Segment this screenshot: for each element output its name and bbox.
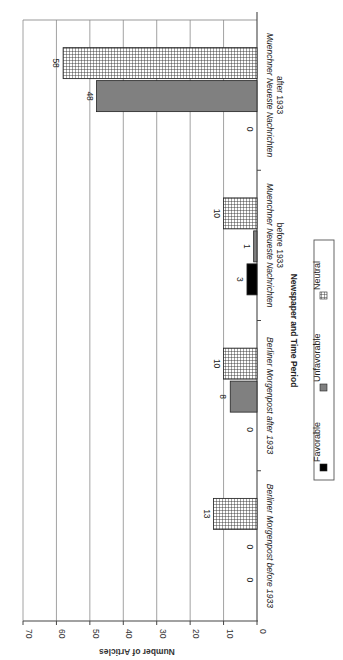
bar-favorable: [247, 264, 257, 295]
y-tick-label: 30: [158, 629, 168, 639]
data-label: 13: [202, 509, 212, 519]
bar-unfavorable: [97, 81, 257, 112]
category-label: before 1933: [275, 223, 285, 269]
category-label: after 1933: [275, 76, 285, 115]
y-tick-label: 20: [191, 629, 201, 639]
category-label: Muenchner Neueste Nachrichten: [265, 183, 275, 308]
legend-swatch-unfavorable: [320, 384, 327, 391]
data-label: 0: [245, 427, 255, 432]
data-label: 3: [235, 277, 245, 282]
x-axis-title: Newspaper and Time Period: [289, 274, 299, 388]
y-tick-label: 70: [24, 629, 34, 639]
legend-label-unfavorable: Unfavorable: [312, 333, 322, 382]
data-label: 0: [245, 578, 255, 583]
legend-label-favorable: Favorable: [312, 422, 322, 462]
data-label: 8: [218, 394, 228, 399]
legend-swatch-neutral: [320, 292, 327, 299]
y-tick-label: 0: [258, 629, 268, 634]
bar-neutral: [224, 348, 257, 379]
bar-unfavorable: [230, 381, 257, 412]
category-label: Berliner Morgenpost before 1933: [265, 484, 275, 609]
data-label: 1: [242, 244, 252, 249]
legend-swatch-favorable: [320, 464, 327, 471]
bar-unfavorable: [254, 231, 257, 262]
chart-canvas: 010203040506070Number of Articles 0013Be…: [0, 0, 343, 660]
data-label: 10: [212, 209, 222, 219]
category-label: Berliner Morgenpost after 1933: [265, 337, 275, 454]
y-tick-label: 50: [91, 629, 101, 639]
data-label: 0: [245, 545, 255, 550]
data-label: 58: [51, 58, 61, 68]
legend-label-neutral: Neutral: [312, 261, 322, 290]
bar-neutral: [224, 198, 257, 229]
bar-chart: 010203040506070Number of Articles 0013Be…: [0, 0, 343, 660]
bars-layer: [63, 48, 257, 530]
y-tick-label: 40: [124, 629, 134, 639]
data-label: 10: [212, 359, 222, 369]
category-label: Muenchner Neueste Nachrichten: [265, 33, 275, 158]
y-tick-label: 60: [57, 629, 67, 639]
bar-neutral: [63, 48, 257, 79]
data-label: 48: [85, 91, 95, 101]
bar-neutral: [214, 498, 257, 529]
y-axis-title: Number of Articles: [99, 647, 175, 657]
data-label: 0: [245, 127, 255, 132]
labels-layer: 0013Berliner Morgenpost before 19330810B…: [51, 33, 334, 608]
y-tick-label: 10: [225, 629, 235, 639]
